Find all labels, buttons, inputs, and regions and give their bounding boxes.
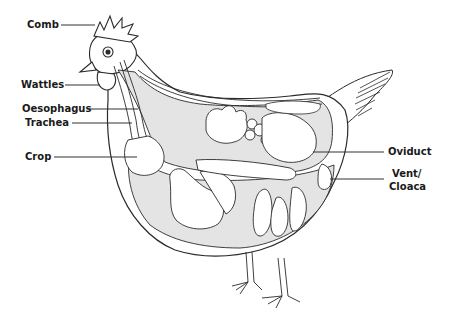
label-trachea: Trachea — [25, 117, 69, 129]
label-oesophagus: Oesophagus — [22, 103, 91, 115]
hen-anatomy-diagram — [0, 0, 450, 325]
label-wattles: Wattles — [21, 79, 64, 91]
label-comb: Comb — [27, 19, 59, 31]
legs — [232, 252, 300, 308]
label-crop: Crop — [25, 151, 51, 163]
crop-organ — [125, 136, 165, 175]
wattles-shape — [97, 72, 115, 90]
label-oviduct: Oviduct — [388, 146, 431, 158]
label-vent: Vent/ — [392, 168, 422, 180]
label-cloaca: Cloaca — [389, 181, 426, 193]
kidney-band — [266, 101, 320, 114]
